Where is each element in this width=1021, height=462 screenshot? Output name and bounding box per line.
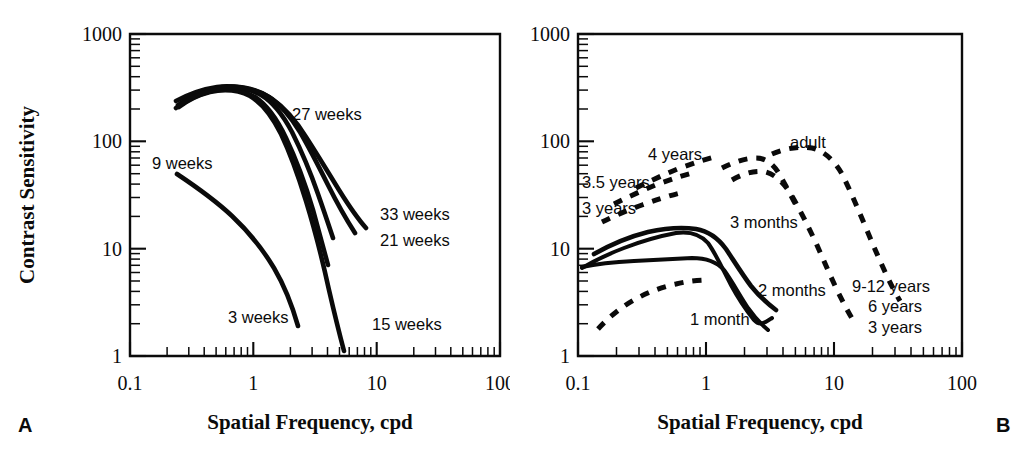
- panel-a-y-ticks: [130, 34, 146, 356]
- curve-label-6-years: 6 years: [868, 297, 922, 315]
- curve-label-1-month: 1 month: [690, 310, 750, 328]
- panel-b-x-tick-labels: 0.1 1 10 100: [566, 372, 978, 394]
- panel-a-plot: 1 10 100 1000 0.1 1 10 100 Spatial Frequ…: [0, 0, 510, 462]
- curve-label-3-5-years: 3.5 years: [582, 173, 650, 191]
- x-tick-label: 10: [824, 372, 844, 394]
- panel-a: 1 10 100 1000 0.1 1 10 100 Spatial Frequ…: [0, 0, 510, 462]
- curve-label-33-weeks: 33 weeks: [380, 205, 450, 223]
- x-tick-label: 0.1: [118, 372, 143, 394]
- curve-3-months: [594, 228, 776, 310]
- x-tick-label: 1: [248, 372, 258, 394]
- x-tick-label: 10: [367, 372, 387, 394]
- y-tick-label: 1000: [82, 23, 122, 45]
- curve-label-adult: adult: [790, 133, 826, 151]
- curve-label-9-12-years: 9-12 years: [852, 277, 930, 295]
- panel-b-x-ticks: [578, 342, 962, 356]
- panel-b-x-axis-title: Spatial Frequency, cpd: [657, 410, 863, 434]
- curve-label-3-years-left: 3 years: [582, 199, 636, 217]
- x-tick-label: 1: [701, 372, 711, 394]
- figure-root: 1 10 100 1000 0.1 1 10 100 Spatial Frequ…: [0, 0, 1021, 462]
- panel-a-curve-labels: 27 weeks 9 weeks 33 weeks 21 weeks 3 wee…: [152, 105, 450, 333]
- curve-label-2-months: 2 months: [758, 281, 826, 299]
- x-tick-label: 0.1: [566, 372, 591, 394]
- panel-b-y-tick-labels: 1 10 100 1000: [530, 23, 570, 367]
- y-tick-label: 1: [112, 345, 122, 367]
- panel-b-y-ticks: [578, 34, 594, 356]
- y-tick-label: 1000: [530, 23, 570, 45]
- panel-a-axes: [130, 34, 500, 356]
- curve-3-weeks: [177, 174, 298, 326]
- y-tick-label: 100: [540, 130, 570, 152]
- y-tick-label: 1: [560, 345, 570, 367]
- curve-label-21-weeks: 21 weeks: [380, 231, 450, 249]
- panel-a-x-ticks: [130, 342, 500, 356]
- panel-a-y-tick-labels: 1 10 100 1000: [82, 23, 122, 367]
- panel-b-plot: 1 10 100 1000 0.1 1 10 100 Spatial Frequ…: [510, 0, 1021, 462]
- x-tick-label: 100: [485, 372, 510, 394]
- panel-b: 1 10 100 1000 0.1 1 10 100 Spatial Frequ…: [510, 0, 1021, 462]
- y-tick-label: 10: [550, 238, 570, 260]
- panel-letter-a: A: [18, 414, 32, 436]
- x-tick-label: 100: [947, 372, 977, 394]
- panel-a-y-axis-title: Contrast Sensitivity: [15, 106, 39, 284]
- curve-label-3-weeks: 3 weeks: [228, 308, 289, 326]
- curve-label-27-weeks: 27 weeks: [292, 105, 362, 123]
- curve-label-9-weeks: 9 weeks: [152, 154, 213, 172]
- panel-a-x-tick-labels: 0.1 1 10 100: [118, 372, 511, 394]
- curve-label-15-weeks: 15 weeks: [372, 315, 442, 333]
- y-tick-label: 10: [102, 238, 122, 260]
- panel-letter-b: B: [996, 414, 1010, 436]
- curve-label-3-years-right: 3 years: [868, 318, 922, 336]
- panel-a-x-axis-title: Spatial Frequency, cpd: [207, 410, 413, 434]
- curve-label-4-years: 4 years: [648, 145, 702, 163]
- curve-label-3-months: 3 months: [730, 213, 798, 231]
- y-tick-label: 100: [92, 130, 122, 152]
